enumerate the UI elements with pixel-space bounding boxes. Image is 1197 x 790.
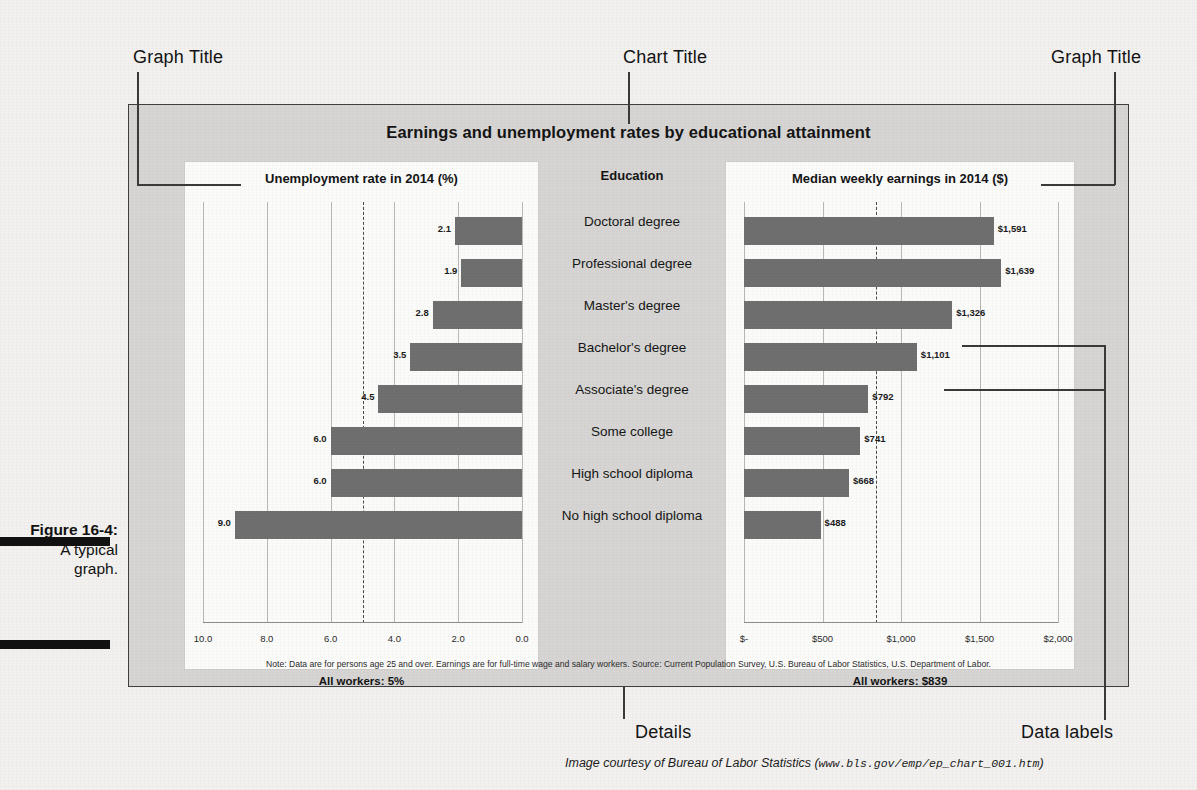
leader-line-chart-title bbox=[628, 72, 630, 124]
bar-row: 3.5 bbox=[203, 336, 522, 378]
bar-associate-s-degree bbox=[378, 385, 522, 413]
bar-row: $1,101 bbox=[744, 336, 1058, 378]
data-label: $1,326 bbox=[956, 307, 985, 318]
graph-unemployment-rate: Unemployment rate in 2014 (%) 2.11.92.83… bbox=[184, 161, 539, 670]
bar-professional-degree bbox=[461, 259, 522, 287]
bar-row: $1,326 bbox=[744, 294, 1058, 336]
data-label: $792 bbox=[872, 391, 893, 402]
x-axis-ticks-earnings: $-$500$1,000$1,500$2,000 bbox=[744, 633, 1058, 647]
annotation-data-labels: Data labels bbox=[1021, 722, 1113, 743]
axis-tick-label: 0.0 bbox=[515, 633, 528, 644]
data-label: $1,591 bbox=[998, 223, 1027, 234]
bar-row: $488 bbox=[744, 504, 1058, 546]
data-label: $668 bbox=[853, 475, 874, 486]
bar-row: $741 bbox=[744, 420, 1058, 462]
plot-area-unemployment: 2.11.92.83.54.56.06.09.0 bbox=[203, 202, 522, 623]
bar-high-school-diploma bbox=[744, 469, 849, 497]
data-label: 9.0 bbox=[218, 517, 231, 528]
bar-row: 6.0 bbox=[203, 420, 522, 462]
bar-some-college bbox=[331, 427, 522, 455]
all-workers-earnings: All workers: $839 bbox=[725, 675, 1075, 687]
bar-master-s-degree bbox=[744, 301, 952, 329]
x-axis-ticks-unemployment: 10.08.06.04.02.00.0 bbox=[203, 633, 522, 647]
axis-tick-label: 10.0 bbox=[194, 633, 213, 644]
leader-line-data-labels-elbow bbox=[1104, 345, 1106, 390]
data-label: 6.0 bbox=[313, 475, 326, 486]
chart-title: Earnings and unemployment rates by educa… bbox=[129, 123, 1128, 142]
leader-line-graph-title-right-horizontal bbox=[1041, 184, 1115, 186]
axis-tick-label: $- bbox=[740, 633, 748, 644]
education-label-master-s-degree: Master's degree bbox=[541, 285, 723, 327]
figure-number: Figure 16-4: bbox=[0, 520, 118, 540]
annotation-graph-title-left: Graph Title bbox=[133, 47, 223, 68]
data-label: $1,101 bbox=[921, 349, 950, 360]
annotation-graph-title-right: Graph Title bbox=[1051, 47, 1141, 68]
data-label: $488 bbox=[825, 517, 846, 528]
bar-row: 9.0 bbox=[203, 504, 522, 546]
axis-tick-label: 4.0 bbox=[388, 633, 401, 644]
graph-title-earnings: Median weekly earnings in 2014 ($) bbox=[726, 171, 1074, 186]
bar-associate-s-degree bbox=[744, 385, 868, 413]
axis-tick-label: 6.0 bbox=[324, 633, 337, 644]
data-label: 1.9 bbox=[444, 265, 457, 276]
bar-series: 2.11.92.83.54.56.06.09.0 bbox=[203, 202, 522, 623]
data-label: 2.1 bbox=[438, 223, 451, 234]
credit-url: www.bls.gov/emp/ep_chart_001.htm bbox=[819, 757, 1040, 770]
bar-doctoral-degree bbox=[744, 217, 994, 245]
education-column-header: Education bbox=[541, 168, 723, 183]
bar-row: $668 bbox=[744, 462, 1058, 504]
annotation-details: Details bbox=[635, 722, 691, 743]
axis-tick-label: $1,000 bbox=[886, 633, 915, 644]
education-label-doctoral-degree: Doctoral degree bbox=[541, 201, 723, 243]
credit-close: ) bbox=[1039, 756, 1043, 770]
education-label-associate-s-degree: Associate's degree bbox=[541, 369, 723, 411]
data-label: 3.5 bbox=[393, 349, 406, 360]
axis-tick-label: $500 bbox=[812, 633, 833, 644]
leader-line-graph-title-right-vertical bbox=[1114, 72, 1116, 185]
axis-tick-label: 2.0 bbox=[452, 633, 465, 644]
data-label: 6.0 bbox=[313, 433, 326, 444]
figure-caption-line2: A typical bbox=[0, 540, 118, 560]
leader-line-graph-title-left-horizontal bbox=[137, 184, 241, 186]
gridline bbox=[1058, 202, 1059, 623]
image-credit: Image courtesy of Bureau of Labor Statis… bbox=[565, 756, 1044, 770]
data-label: $741 bbox=[864, 433, 885, 444]
data-label: 4.5 bbox=[361, 391, 374, 402]
figure-caption-line3: graph. bbox=[0, 559, 118, 579]
bar-bachelor-s-degree bbox=[410, 343, 522, 371]
bar-row: 4.5 bbox=[203, 378, 522, 420]
data-label: $1,639 bbox=[1005, 265, 1034, 276]
bar-bachelor-s-degree bbox=[744, 343, 917, 371]
leader-line-data-labels-to-1326 bbox=[962, 345, 1105, 347]
education-label-professional-degree: Professional degree bbox=[541, 243, 723, 285]
bar-row: $1,591 bbox=[744, 210, 1058, 252]
caption-rule-bottom bbox=[0, 640, 110, 649]
leader-line-graph-title-left-vertical bbox=[137, 72, 139, 185]
bar-no-high-school-diploma bbox=[235, 511, 522, 539]
bar-row: 6.0 bbox=[203, 462, 522, 504]
gridline bbox=[522, 202, 523, 623]
bar-professional-degree bbox=[744, 259, 1001, 287]
all-workers-unemployment: All workers: 5% bbox=[184, 675, 539, 687]
bar-series: $1,591$1,639$1,326$1,101$792$741$668$488 bbox=[744, 202, 1058, 623]
axis-tick-label: 8.0 bbox=[260, 633, 273, 644]
leader-line-data-labels-vertical bbox=[1104, 345, 1106, 720]
axis-tick-label: $1,500 bbox=[965, 633, 994, 644]
chart-panel: Earnings and unemployment rates by educa… bbox=[128, 104, 1129, 687]
data-label: 2.8 bbox=[415, 307, 428, 318]
annotation-chart-title: Chart Title bbox=[623, 47, 707, 68]
education-label-some-college: Some college bbox=[541, 411, 723, 453]
bar-high-school-diploma bbox=[331, 469, 522, 497]
leader-line-details bbox=[623, 687, 625, 719]
chart-note: Note: Data are for persons age 25 and ov… bbox=[159, 659, 1098, 669]
education-category-labels: Doctoral degreeProfessional degreeMaster… bbox=[541, 201, 723, 670]
graph-median-earnings: Median weekly earnings in 2014 ($) $1,59… bbox=[725, 161, 1075, 670]
figure-caption: Figure 16-4: A typical graph. bbox=[0, 520, 118, 579]
bar-master-s-degree bbox=[433, 301, 522, 329]
education-label-no-high-school-diploma: No high school diploma bbox=[541, 495, 723, 537]
plot-area-earnings: $1,591$1,639$1,326$1,101$792$741$668$488 bbox=[744, 202, 1058, 623]
axis-tick-label: $2,000 bbox=[1043, 633, 1072, 644]
bar-row: $1,639 bbox=[744, 252, 1058, 294]
bar-row: 2.8 bbox=[203, 294, 522, 336]
bar-no-high-school-diploma bbox=[744, 511, 821, 539]
